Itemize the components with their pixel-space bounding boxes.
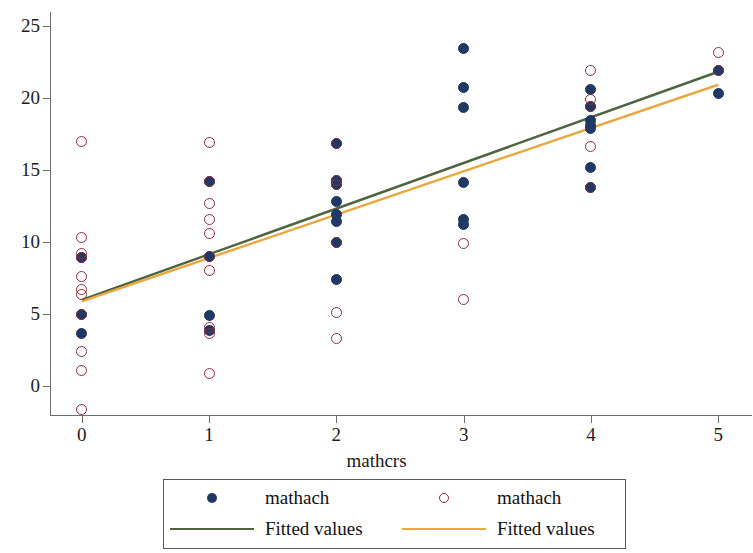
data-point-series-2	[204, 137, 215, 148]
data-point-series-2	[204, 368, 215, 379]
y-tick-mark	[43, 386, 50, 387]
data-point-series-1	[331, 274, 342, 285]
data-point-series-2	[331, 138, 342, 149]
data-point-series-2	[585, 65, 596, 76]
data-point-series-1	[585, 162, 596, 173]
legend-entry-mathach-filled: mathach	[164, 482, 329, 513]
legend-row-markers: mathach mathach	[164, 482, 625, 513]
orange-line-key-icon	[396, 528, 491, 530]
data-point-series-2	[76, 289, 87, 300]
data-point-series-2	[76, 232, 87, 243]
data-point-series-2	[76, 404, 87, 415]
data-point-series-2	[204, 214, 215, 225]
data-point-series-1	[76, 328, 87, 339]
data-point-series-2	[331, 179, 342, 190]
y-tick-label: 0	[0, 376, 40, 395]
data-point-series-2	[204, 198, 215, 209]
x-tick-label: 3	[449, 425, 479, 444]
data-point-series-1	[458, 177, 469, 188]
data-point-series-2	[585, 101, 596, 112]
y-tick-mark	[43, 170, 50, 171]
data-point-series-2	[76, 136, 87, 147]
legend-label-2: Fitted values	[259, 518, 363, 540]
data-point-series-1	[331, 216, 342, 227]
y-tick-label: 20	[0, 88, 40, 107]
data-point-series-2	[204, 265, 215, 276]
x-tick-label: 4	[576, 425, 606, 444]
data-point-series-2	[331, 237, 342, 248]
legend-entry-mathach-open: mathach	[396, 482, 561, 513]
data-point-series-1	[458, 219, 469, 230]
data-point-series-2	[585, 182, 596, 193]
data-point-series-2	[76, 346, 87, 357]
scatter-plot-figure: 0510152025 012345 mathcrs mathach mathac…	[0, 0, 753, 553]
data-point-series-1	[585, 123, 596, 134]
y-tick-mark	[43, 314, 50, 315]
data-point-series-2	[76, 252, 87, 263]
filled-circle-key-icon	[164, 493, 259, 503]
data-point-series-2	[76, 365, 87, 376]
data-point-series-1	[713, 88, 724, 99]
green-line-key-icon	[164, 528, 259, 530]
legend: mathach mathach Fitted values Fitted val…	[163, 479, 626, 549]
data-point-series-2	[713, 47, 724, 58]
data-point-series-2	[204, 328, 215, 339]
data-point-series-2	[204, 251, 215, 262]
y-tick-label: 10	[0, 232, 40, 251]
data-point-series-2	[76, 271, 87, 282]
y-tick-mark	[43, 26, 50, 27]
y-tick-label: 15	[0, 160, 40, 179]
data-point-series-2	[204, 228, 215, 239]
x-tick-label: 2	[321, 425, 351, 444]
x-tick-label: 0	[67, 425, 97, 444]
y-tick-label: 5	[0, 304, 40, 323]
data-point-series-1	[458, 82, 469, 93]
plot-area	[50, 14, 750, 424]
data-point-series-2	[204, 176, 215, 187]
data-point-series-1	[585, 84, 596, 95]
data-point-series-2	[331, 307, 342, 318]
data-point-series-2	[585, 141, 596, 152]
data-point-series-1	[458, 102, 469, 113]
legend-row-lines: Fitted values Fitted values	[164, 513, 625, 544]
data-point-series-2	[458, 238, 469, 249]
x-tick-label: 5	[703, 425, 733, 444]
y-tick-label: 25	[0, 16, 40, 35]
data-point-series-1	[204, 310, 215, 321]
x-axis-title: mathcrs	[0, 450, 753, 472]
data-point-series-2	[713, 65, 724, 76]
data-point-series-2	[331, 333, 342, 344]
x-tick-label: 1	[194, 425, 224, 444]
data-point-series-1	[331, 196, 342, 207]
y-tick-mark	[43, 98, 50, 99]
legend-entry-fitted-orange: Fitted values	[396, 513, 595, 544]
data-point-series-1	[458, 43, 469, 54]
legend-label-0: mathach	[259, 487, 329, 509]
legend-label-3: Fitted values	[491, 518, 595, 540]
open-circle-key-icon	[396, 493, 491, 503]
y-tick-mark	[43, 242, 50, 243]
data-point-series-2	[76, 309, 87, 320]
legend-label-1: mathach	[491, 487, 561, 509]
legend-entry-fitted-green: Fitted values	[164, 513, 363, 544]
data-point-series-2	[458, 294, 469, 305]
